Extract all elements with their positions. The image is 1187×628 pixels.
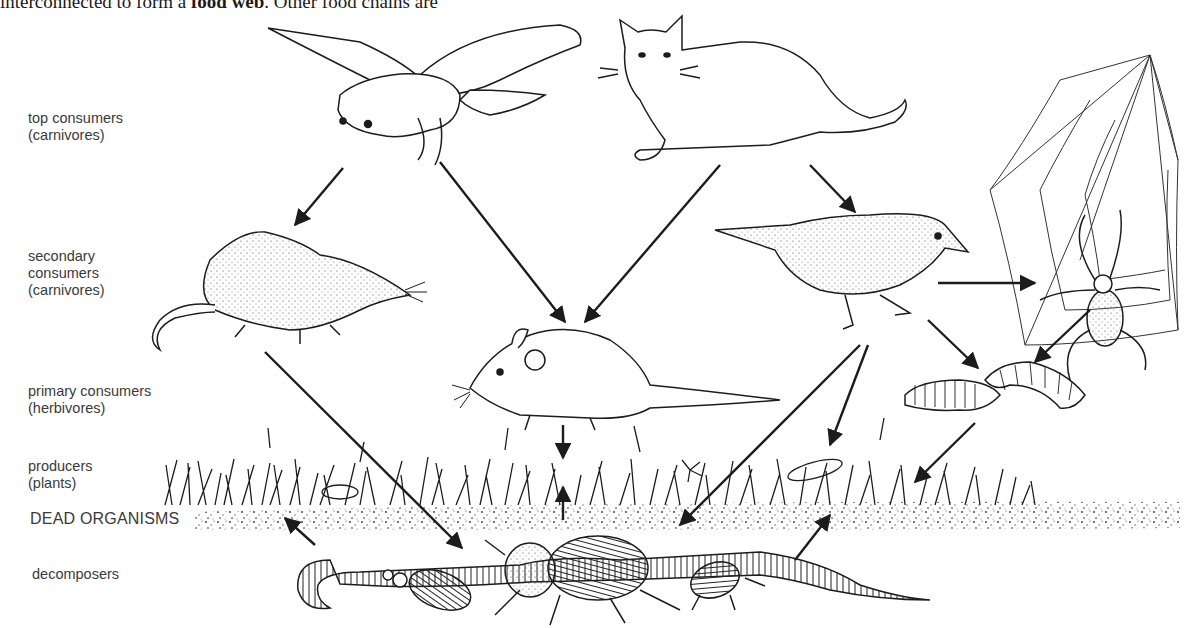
arrow-thrush-to-caterpillars (928, 320, 978, 368)
grass-plants (165, 418, 1035, 505)
caterpillars-illustration (905, 362, 1085, 410)
owl-illustration (268, 25, 581, 165)
thrush-illustration (715, 214, 968, 329)
arrow-thrush-to-plants (830, 345, 868, 445)
arrow-cat-to-thrush (810, 165, 855, 212)
shrew-illustration (153, 232, 428, 350)
arrow-cat-to-mouse (585, 165, 720, 322)
arrow-owl-to-mouse (440, 162, 565, 322)
spider-illustration (1040, 210, 1160, 380)
arrow-owl-to-shrew (295, 168, 343, 225)
food-web-diagram (0, 0, 1187, 628)
beetles-illustration (383, 536, 765, 625)
spider-web-illustration (990, 55, 1178, 345)
cat-illustration (598, 16, 906, 160)
mouse-illustration (452, 329, 780, 430)
